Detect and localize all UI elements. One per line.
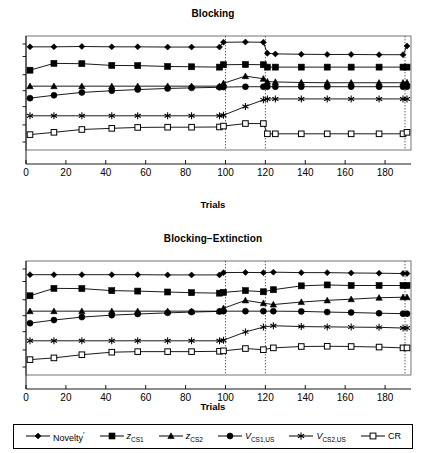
legend-marker-diamond xyxy=(25,430,51,442)
svg-text:140: 140 xyxy=(297,167,314,178)
svg-text:100: 100 xyxy=(217,167,234,178)
plot-svg-blocking: 020406080100120140160180 xyxy=(0,28,426,178)
legend-item-v_cs1_us: VCS1,US xyxy=(217,428,275,446)
legend-item-v_cs2_us: VCS2,US xyxy=(288,428,346,446)
chart-panel-blocking-extinction: Blocking−Extinction 02040608010012014016… xyxy=(0,225,426,417)
legend-marker-square xyxy=(99,430,125,442)
diamond-marker-icon xyxy=(25,428,51,446)
legend-label-cr: CR xyxy=(387,432,401,441)
legend-item-z_cs2: zCS2 xyxy=(158,428,203,446)
x-axis-label-blocking-extinction: Trials xyxy=(0,401,426,412)
svg-text:60: 60 xyxy=(140,167,152,178)
triangle-marker-icon xyxy=(158,428,184,446)
legend-label-z_cs2: zCS2 xyxy=(185,432,203,441)
svg-text:0: 0 xyxy=(23,167,29,178)
square-marker-icon xyxy=(99,428,125,446)
legend-label-z_cs1: zCS1 xyxy=(126,432,144,441)
square-open-marker-icon xyxy=(360,428,386,446)
legend-marker-triangle xyxy=(158,430,184,442)
chart-title-blocking: Blocking xyxy=(0,8,426,19)
svg-text:160: 160 xyxy=(337,167,354,178)
plot-area-blocking-extinction: 020406080100120140160180 xyxy=(0,253,426,403)
legend-label-v_cs2_us: VCS2,US xyxy=(315,432,346,441)
legend-marker-square-open xyxy=(360,430,386,442)
x-axis-label-blocking: Trials xyxy=(0,199,426,210)
legend-marker-circle xyxy=(217,430,243,442)
legend-marker-asterisk xyxy=(288,430,314,442)
svg-text:80: 80 xyxy=(180,167,192,178)
legend-label-novelty: Novelty′ xyxy=(52,431,85,443)
svg-text:120: 120 xyxy=(257,167,274,178)
asterisk-marker-icon xyxy=(288,428,314,446)
figure-root: Blocking 020406080100120140160180 Trials… xyxy=(0,0,426,453)
plot-area-blocking: 020406080100120140160180 xyxy=(0,28,426,178)
legend-item-novelty: Novelty′ xyxy=(25,428,85,446)
circle-marker-icon xyxy=(217,428,243,446)
legend-label-v_cs1_us: VCS1,US xyxy=(244,432,275,441)
chart-title-blocking-extinction: Blocking−Extinction xyxy=(0,233,426,244)
chart-panel-blocking: Blocking 020406080100120140160180 Trials xyxy=(0,0,426,225)
svg-text:180: 180 xyxy=(377,167,394,178)
legend-item-cr: CR xyxy=(360,428,401,446)
plot-svg-blocking-extinction: 020406080100120140160180 xyxy=(0,253,426,403)
series-legend: Novelty′zCS1zCS2VCS1,USVCS2,USCR xyxy=(13,424,413,449)
legend-item-z_cs1: zCS1 xyxy=(99,428,144,446)
svg-text:20: 20 xyxy=(60,167,72,178)
svg-text:40: 40 xyxy=(100,167,112,178)
